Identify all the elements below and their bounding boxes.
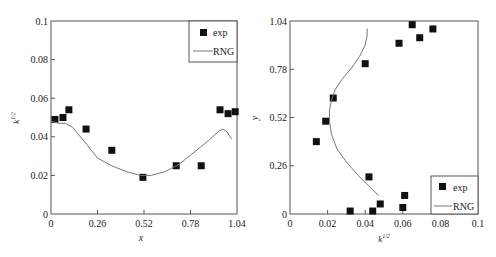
x-tick-label: 0.1 <box>472 218 485 229</box>
y-tick-label: 0.78 <box>270 64 288 75</box>
svg-text:y: y <box>249 115 260 121</box>
right-xlabel-sup: 1/2 <box>382 233 390 239</box>
exp-data-point <box>322 118 329 125</box>
left-ylabel-sup: 1/2 <box>10 112 16 120</box>
x-tick-label: 0.06 <box>394 218 412 229</box>
x-tick-label: 0.78 <box>182 218 200 229</box>
exp-data-point <box>83 126 90 133</box>
x-tick-label: 0 <box>49 218 54 229</box>
legend-exp-label: exp <box>213 27 227 38</box>
y-tick-label: 0.04 <box>31 131 49 142</box>
left-chart: 00.260.520.781.0400.020.040.060.080.1 ex… <box>10 16 246 244</box>
rng-curve <box>330 28 379 195</box>
x-tick-label: 0.26 <box>89 218 107 229</box>
exp-data-point <box>217 106 224 113</box>
x-tick-label: 1.04 <box>228 218 246 229</box>
right-xlabel: k1/2 <box>378 233 390 244</box>
y-tick-label: 0 <box>43 209 48 220</box>
exp-data-point <box>362 60 369 67</box>
legend-exp-marker-icon <box>200 29 207 36</box>
exp-data-point <box>365 173 372 180</box>
exp-data-point <box>429 25 436 32</box>
legend-exp-marker-icon <box>439 183 446 190</box>
x-tick-label: 0 <box>288 218 293 229</box>
y-tick-label: 0.26 <box>270 160 288 171</box>
right-chart: 00.020.040.060.080.100.260.520.781.04 ex… <box>249 16 484 245</box>
x-tick-label: 0.04 <box>356 218 374 229</box>
exp-data-point <box>225 110 232 117</box>
y-tick-label: 1.04 <box>270 16 288 27</box>
y-tick-label: 0.08 <box>31 54 49 65</box>
exp-data-point <box>139 174 146 181</box>
legend-rng-label: RNG <box>213 46 234 57</box>
right-series <box>313 21 437 214</box>
exp-data-point <box>65 106 72 113</box>
left-series <box>51 106 239 181</box>
x-tick-label: 0.52 <box>135 218 153 229</box>
legend-exp-label: exp <box>453 182 467 193</box>
exp-data-point <box>313 138 320 145</box>
y-tick-label: 0.06 <box>31 93 49 104</box>
exp-data-point <box>416 34 423 41</box>
left-legend: exp RNG <box>189 21 237 62</box>
y-tick-label: 0.02 <box>31 170 49 181</box>
left-ylabel: k1/2 <box>10 112 21 124</box>
exp-data-point <box>198 162 205 169</box>
exp-data-point <box>399 204 406 211</box>
x-tick-label: 0.02 <box>319 218 337 229</box>
exp-data-point <box>396 40 403 47</box>
y-tick-label: 0.1 <box>36 16 49 27</box>
x-tick-label: 0.08 <box>432 218 450 229</box>
exp-data-point <box>347 208 354 215</box>
exp-data-point <box>59 114 66 121</box>
exp-data-point <box>232 108 239 115</box>
right-legend: exp RNG <box>431 176 478 214</box>
exp-data-point <box>108 147 115 154</box>
exp-data-point <box>369 208 376 215</box>
left-xlabel: x <box>138 232 144 243</box>
svg-text:k1/2: k1/2 <box>10 112 21 124</box>
legend-rng-label: RNG <box>453 201 474 212</box>
right-ylabel: y <box>249 115 260 121</box>
y-tick-label: 0.52 <box>270 112 288 123</box>
figure: 00.260.520.781.0400.020.040.060.080.1 ex… <box>0 0 496 257</box>
y-tick-label: 0 <box>282 209 287 220</box>
exp-data-point <box>409 21 416 28</box>
exp-data-point <box>377 200 384 207</box>
exp-data-point <box>401 192 408 199</box>
